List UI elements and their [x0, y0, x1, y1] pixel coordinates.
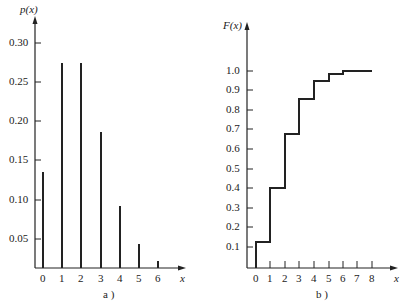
left-ytick: 0.25 [9, 76, 28, 87]
left-x-arrow-icon [178, 266, 186, 271]
right-xtick: 7 [354, 273, 360, 284]
right-xtick: 2 [282, 273, 288, 284]
left-ytick: 0.10 [9, 194, 28, 205]
left-xtick: 2 [78, 273, 84, 284]
left-ytick: 0.20 [9, 115, 28, 126]
right-caption: b ) [316, 289, 328, 300]
right-xtick: 6 [340, 273, 346, 284]
right-xtick: 1 [267, 273, 273, 284]
left-xtick: 5 [136, 273, 142, 284]
right-ytick: 0.7 [226, 123, 240, 134]
right-ytick: 0.1 [226, 241, 240, 252]
left-xtick: 1 [59, 273, 65, 284]
left-xtick: 4 [117, 273, 123, 284]
right-xtick: 8 [369, 273, 375, 284]
left-xtick: 3 [98, 273, 104, 284]
left-caption: a ) [103, 289, 114, 300]
right-xtick: 4 [311, 273, 317, 284]
right-x-label: x [394, 273, 399, 284]
right-ytick: 0.9 [226, 84, 240, 95]
right-ytick: 0.2 [226, 221, 240, 232]
right-xtick: 3 [296, 273, 302, 284]
left-xtick: 0 [40, 273, 46, 284]
right-ytick: 0.4 [226, 182, 240, 193]
right-xtick: 5 [326, 273, 332, 284]
right-y-arrow-icon [245, 22, 250, 30]
left-ytick: 0.05 [9, 233, 28, 244]
pmf-bars [43, 63, 158, 268]
cdf-step-line [256, 71, 372, 268]
right-ytick: 0.5 [226, 163, 240, 174]
charts-canvas [0, 0, 407, 306]
right-ytick: 0.8 [226, 104, 240, 115]
right-ytick: 0.3 [226, 202, 240, 213]
right-ytick: 0.6 [226, 143, 240, 154]
left-y-arrow-icon [33, 16, 38, 24]
right-y-label: F(x) [223, 20, 242, 31]
left-ytick: 0.15 [9, 154, 28, 165]
left-y-label: p(x) [20, 4, 38, 15]
left-ytick: 0.30 [9, 37, 28, 48]
right-xtick: 0 [253, 273, 259, 284]
right-ytick: 1.0 [226, 65, 240, 76]
left-x-label: x [180, 273, 185, 284]
right-x-arrow-icon [390, 266, 398, 271]
left-xtick: 6 [155, 273, 161, 284]
